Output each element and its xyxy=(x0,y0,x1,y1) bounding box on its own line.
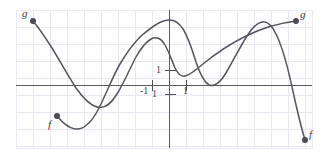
y-tick-label-neg1-sub: 1 xyxy=(152,89,157,99)
endpoint-f-left xyxy=(54,113,60,119)
y-tick-label-1: 1 xyxy=(156,65,161,75)
endpoint-label-f-right: f xyxy=(309,129,312,140)
plot-frame xyxy=(17,11,313,149)
endpoint-f-right xyxy=(302,137,308,143)
curve-f xyxy=(57,20,305,140)
x-tick-label-1: 1 xyxy=(183,86,188,96)
x-tick-label-neg1: -1 xyxy=(140,86,148,96)
graph-canvas xyxy=(0,0,328,160)
endpoint-g-left xyxy=(30,18,36,24)
endpoint-label-g-left: g xyxy=(22,8,28,19)
endpoint-g-right xyxy=(293,18,299,24)
grid-lines xyxy=(16,10,313,148)
function-graph-figure: g f g f 1 -1 1 1 xyxy=(0,0,328,160)
endpoint-label-f-left: f xyxy=(48,119,51,130)
curve-g xyxy=(33,21,296,107)
endpoint-label-g-right: g xyxy=(300,9,306,20)
